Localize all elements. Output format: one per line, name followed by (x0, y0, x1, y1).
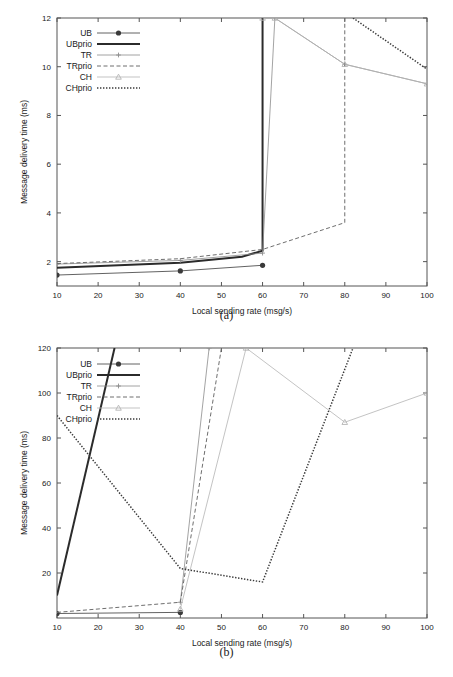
legend-label-TRprio: TRprio (66, 392, 92, 402)
legend-label-TR: TR (81, 50, 92, 60)
x-tick-label: 100 (420, 623, 434, 632)
legend-label-CHprio: CHprio (66, 414, 93, 424)
y-axis-title: Message delivery time (ms) (19, 431, 29, 535)
legend-label-TRprio: TRprio (66, 61, 92, 71)
legend-label-UB: UB (80, 28, 92, 38)
x-tick-label: 70 (299, 291, 308, 300)
x-tick-label: 30 (135, 623, 144, 632)
y-tick-label: 4 (47, 209, 52, 218)
x-tick-label: 10 (53, 291, 62, 300)
legend-label-UB: UB (80, 359, 92, 369)
x-tick-label: 50 (217, 623, 226, 632)
y-tick-label: 100 (38, 389, 52, 398)
legend-label-TR: TR (81, 381, 92, 391)
series-marker-UB (54, 272, 59, 277)
y-axis-title: Message delivery time (ms) (19, 100, 29, 204)
legend-(b): UBUBprioTRTRprioCHCHprio (66, 359, 140, 424)
x-tick-label: 20 (94, 291, 103, 300)
legend-label-UBprio: UBprio (66, 370, 92, 380)
x-tick-label: 60 (258, 623, 267, 632)
subcaption-b: (b) (0, 645, 453, 660)
series-marker-UB (178, 610, 183, 615)
x-tick-label: 90 (381, 291, 390, 300)
chart-panel-a: 10203040506070809010024681012Local sendi… (0, 0, 453, 330)
series-group (54, 15, 429, 277)
x-tick-label: 100 (420, 291, 434, 300)
y-tick-label: 6 (47, 160, 52, 169)
plot-area-(a): 10203040506070809010024681012Local sendi… (19, 14, 434, 316)
figure-page: 10203040506070809010024681012Local sendi… (0, 0, 453, 677)
y-tick-label: 20 (42, 569, 51, 578)
x-tick-label: 70 (299, 623, 308, 632)
y-tick-label: 12 (42, 14, 51, 23)
series-line-CH (180, 348, 427, 609)
y-tick-label: 80 (42, 434, 51, 443)
y-tick-label: 8 (47, 111, 52, 120)
series-marker-UB (178, 268, 183, 273)
x-tick-label: 60 (258, 291, 267, 300)
y-tick-label: 2 (47, 258, 52, 267)
y-tick-label: 10 (42, 63, 51, 72)
legend-label-CH: CH (80, 403, 92, 413)
legend-label-CHprio: CHprio (66, 83, 93, 93)
x-tick-label: 30 (135, 291, 144, 300)
legend-(a): UBUBprioTRTRprioCHCHprio (66, 28, 140, 93)
chart-b-svg: 10203040506070809010020406080100120Local… (0, 324, 453, 654)
x-tick-label: 40 (176, 623, 185, 632)
series-marker-UB (260, 263, 265, 268)
legend-marker-UB (116, 30, 121, 35)
x-tick-label: 10 (53, 623, 62, 632)
chart-a-svg: 10203040506070809010024681012Local sendi… (0, 0, 453, 330)
y-tick-label: 60 (42, 479, 51, 488)
legend-label-UBprio: UBprio (66, 39, 92, 49)
x-tick-label: 20 (94, 623, 103, 632)
x-tick-label: 50 (217, 291, 226, 300)
x-tick-label: 40 (176, 291, 185, 300)
plot-frame (57, 18, 427, 286)
x-tick-label: 80 (340, 623, 349, 632)
series-marker-UB (54, 611, 59, 616)
series-line-TR (180, 348, 209, 602)
plot-frame (57, 348, 427, 618)
plot-area-(b): 10203040506070809010020406080100120Local… (19, 344, 434, 648)
subcaption-a: (a) (0, 308, 453, 323)
series-line-CHprio (353, 18, 427, 69)
x-tick-label: 80 (340, 291, 349, 300)
x-tick-label: 90 (381, 623, 390, 632)
legend-marker-UB (116, 361, 121, 366)
chart-panel-b: 10203040506070809010020406080100120Local… (0, 324, 453, 677)
y-tick-label: 40 (42, 524, 51, 533)
series-line-UB (57, 612, 180, 613)
legend-label-CH: CH (80, 72, 92, 82)
y-tick-label: 120 (38, 344, 52, 353)
